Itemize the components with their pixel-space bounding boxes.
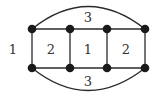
face-label-outer-left: 1 bbox=[9, 43, 17, 56]
face-label-top: 3 bbox=[84, 11, 92, 24]
vertex-d bbox=[141, 25, 150, 34]
face-label-square2: 1 bbox=[84, 43, 92, 56]
vertex-c bbox=[103, 25, 112, 34]
face-label-square3: 2 bbox=[122, 43, 130, 56]
vertex-h bbox=[141, 64, 150, 73]
vertex-b bbox=[66, 25, 75, 34]
graph-diagram: 3 3 1 2 1 2 bbox=[0, 0, 162, 97]
face-label-bottom: 3 bbox=[84, 75, 92, 88]
vertex-g bbox=[103, 64, 112, 73]
vertex-e bbox=[28, 64, 37, 73]
vertex-f bbox=[66, 64, 75, 73]
vertex-a bbox=[28, 25, 37, 34]
graph-drawing bbox=[0, 0, 162, 97]
face-label-square1: 2 bbox=[47, 43, 55, 56]
